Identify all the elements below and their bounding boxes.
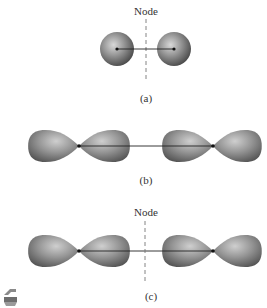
node-label-c: Node — [134, 206, 158, 218]
panel-b: (b) — [28, 130, 262, 187]
page-corner-icon — [4, 289, 17, 306]
nucleus-a-left — [115, 47, 118, 50]
orbital-diagram: Node (a) (b) Node — [0, 0, 267, 308]
panel-c: Node (c) — [28, 206, 262, 303]
nucleus-b-right — [211, 144, 215, 148]
panel-a: Node (a) — [100, 5, 191, 105]
node-label-a: Node — [134, 5, 158, 17]
caption-c: (c) — [145, 290, 158, 303]
nucleus-b-left — [77, 144, 81, 148]
nucleus-c-left — [77, 249, 81, 253]
caption-b: (b) — [140, 174, 153, 187]
caption-a: (a) — [140, 92, 153, 105]
nucleus-a-right — [172, 47, 175, 50]
nucleus-c-right — [211, 249, 215, 253]
